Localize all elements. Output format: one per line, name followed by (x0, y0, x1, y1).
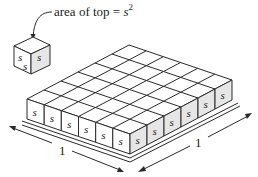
small-cube-label-left: s (18, 51, 22, 63)
callout-prefix: area of top = (54, 4, 123, 19)
callout-leader-arrow (33, 12, 52, 38)
cube-label: s (136, 134, 140, 146)
cube-label: s (118, 135, 122, 147)
callout-label: area of top = s2 (54, 2, 133, 19)
arrow-up-right-icon (245, 113, 252, 119)
dimension-left-line-b (72, 151, 120, 170)
cube-label: s (170, 116, 174, 128)
cube-label: s (153, 125, 157, 137)
cube-label: s (84, 123, 88, 135)
dimension-left-line-a (13, 128, 52, 143)
cube-label: s (101, 129, 105, 141)
diagram-svg: area of top = s2 s s s ssssssssssss (0, 0, 258, 177)
dimension-right-label: 1 (195, 135, 202, 150)
arrow-left-icon (9, 126, 16, 131)
cube-label: s (67, 118, 71, 130)
dimension-right-line-a (142, 146, 190, 170)
cube-label: s (187, 107, 191, 119)
cube-label: s (204, 98, 208, 110)
small-cube-label-right: s (37, 51, 41, 63)
diagram-canvas: area of top = s2 s s s ssssssssssss (0, 0, 258, 177)
callout-exponent: 2 (128, 2, 133, 12)
cube-label: s (221, 89, 225, 101)
cube-label: s (33, 106, 37, 118)
small-cube-label-bottom: s (23, 60, 27, 72)
svg-text:area of top = s2: area of top = s2 (54, 2, 133, 19)
arrow-right-icon (117, 167, 124, 172)
small-cube: s s s (14, 37, 50, 74)
cube-label: s (50, 112, 54, 124)
dimension-left-label: 1 (59, 143, 66, 158)
arrow-down-left-icon (138, 166, 146, 172)
